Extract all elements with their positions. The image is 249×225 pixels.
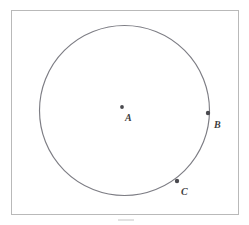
point-b-dot bbox=[206, 111, 210, 115]
geometry-diagram-canvas: A B C bbox=[0, 0, 249, 225]
circle-shape bbox=[40, 26, 210, 196]
point-c-label: C bbox=[181, 186, 188, 197]
figure-container: A B C bbox=[0, 0, 249, 225]
point-c-dot bbox=[175, 179, 179, 183]
point-a-label: A bbox=[124, 112, 132, 123]
caption-remnant bbox=[118, 219, 134, 221]
point-a-dot bbox=[120, 105, 124, 109]
point-b-label: B bbox=[213, 119, 221, 130]
